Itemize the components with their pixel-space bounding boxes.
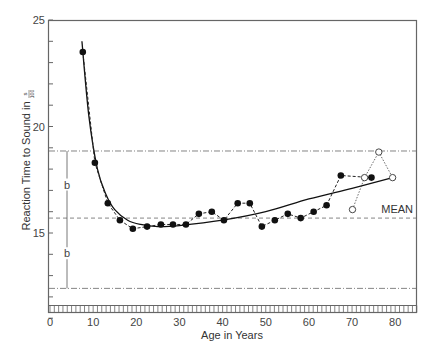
data-point-filled (183, 221, 190, 228)
reaction-time-chart: bb 01020304050607080152025 Age in Years … (0, 0, 434, 355)
data-point-filled (310, 208, 317, 215)
svg-text:b: b (64, 179, 70, 191)
svg-text:40: 40 (216, 316, 228, 328)
data-point-open (349, 206, 355, 212)
svg-text:s: s (22, 93, 28, 96)
data-point-open (376, 149, 382, 155)
svg-text:Reaction Time to Sound in: Reaction Time to Sound in (20, 101, 32, 230)
svg-text:20: 20 (130, 316, 142, 328)
data-series (79, 41, 395, 232)
observed-open-line (352, 152, 392, 210)
y-axis-title: Reaction Time to Sound in s 100 (20, 90, 35, 231)
plot-frame (49, 21, 417, 313)
data-point-filled (323, 202, 330, 209)
svg-text:70: 70 (346, 316, 358, 328)
data-point-filled (105, 200, 112, 207)
svg-text:100: 100 (29, 90, 35, 99)
x-axis-ticks (49, 306, 417, 313)
data-point-filled (368, 174, 375, 181)
data-point-filled (284, 211, 291, 218)
data-point-filled (221, 217, 228, 224)
b-interval-marker: bb (64, 151, 70, 288)
data-point-filled (170, 221, 177, 228)
svg-text:25: 25 (33, 14, 45, 26)
svg-text:30: 30 (173, 316, 185, 328)
y-axis-ticks (49, 20, 54, 318)
svg-text:b: b (64, 247, 70, 259)
reference-lines (49, 151, 416, 288)
mean-label: MEAN (381, 203, 413, 215)
data-point-filled (117, 217, 124, 224)
data-point-filled (272, 217, 279, 224)
data-point-filled (92, 159, 99, 166)
data-point-filled (246, 200, 253, 207)
svg-text:0: 0 (47, 316, 53, 328)
x-axis-title: Age in Years (201, 329, 263, 341)
data-point-filled (209, 208, 216, 215)
tick-labels: 01020304050607080152025 (33, 14, 402, 328)
data-point-open (389, 174, 395, 180)
fitted-curve (82, 41, 393, 226)
svg-text:80: 80 (389, 316, 401, 328)
data-point-filled (297, 215, 304, 222)
data-point-filled (79, 49, 86, 56)
data-point-filled (338, 172, 345, 179)
data-point-filled (158, 221, 165, 228)
data-point-filled (234, 200, 241, 207)
svg-text:15: 15 (33, 227, 45, 239)
svg-text:10: 10 (87, 316, 99, 328)
svg-text:50: 50 (260, 316, 272, 328)
data-point-open (361, 174, 367, 180)
svg-text:60: 60 (303, 316, 315, 328)
data-point-filled (259, 223, 266, 230)
data-point-filled (196, 211, 203, 218)
observed-filled-line (83, 52, 372, 229)
data-point-filled (144, 223, 151, 230)
svg-text:20: 20 (33, 121, 45, 133)
data-point-filled (130, 225, 137, 232)
